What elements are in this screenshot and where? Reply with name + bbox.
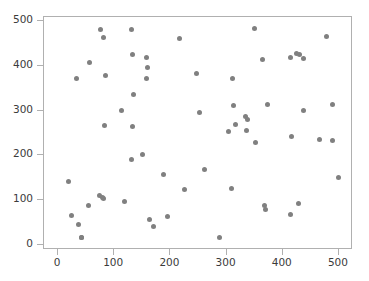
x-axis-tick bbox=[226, 249, 227, 255]
x-axis-tick-label: 0 bbox=[37, 257, 77, 268]
x-axis-tick bbox=[57, 249, 58, 255]
x-axis-tick-label: 400 bbox=[262, 257, 302, 268]
y-axis-tick-label: 200 bbox=[0, 148, 33, 159]
y-axis-tick-label: 500 bbox=[0, 14, 33, 25]
x-axis-tick bbox=[338, 249, 339, 255]
y-axis-tick-label: 0 bbox=[0, 238, 33, 249]
x-axis-tick bbox=[113, 249, 114, 255]
y-axis-tick-label: 100 bbox=[0, 193, 33, 204]
scatter-plot-figure: 0100200300400500 0100200300400500 bbox=[0, 0, 369, 281]
x-axis-tick-label: 300 bbox=[206, 257, 246, 268]
x-axis-tick-label: 100 bbox=[93, 257, 133, 268]
x-axis-tick bbox=[169, 249, 170, 255]
x-axis-tick-label: 200 bbox=[149, 257, 189, 268]
x-axis-tick bbox=[282, 249, 283, 255]
x-axis-tick-label: 500 bbox=[318, 257, 358, 268]
y-axis-tick-label: 400 bbox=[0, 59, 33, 70]
y-axis-tick-labels: 0100200300400500 bbox=[0, 0, 369, 281]
y-axis-tick-label: 300 bbox=[0, 104, 33, 115]
